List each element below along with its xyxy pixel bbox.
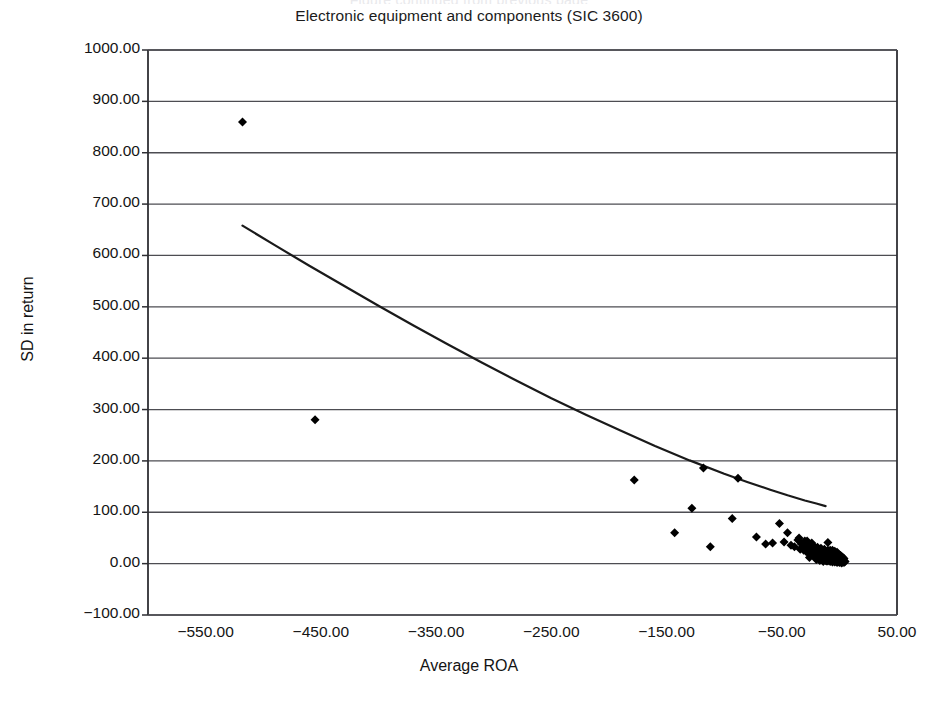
x-axis-tick-labels: −550.00−450.00−350.00−250.00−150.00−50.0…	[0, 623, 938, 649]
y-tick-label: 300.00	[48, 399, 140, 417]
y-tick-label: 1000.00	[48, 39, 140, 57]
y-tick-label: −100.00	[48, 604, 140, 622]
y-tick-label: 500.00	[48, 296, 140, 314]
x-tick-label: 50.00	[827, 623, 938, 641]
y-tick-label: 600.00	[48, 244, 140, 262]
y-tick-label: 0.00	[48, 553, 140, 571]
y-tick-label: 700.00	[48, 193, 140, 211]
y-tick-label: 900.00	[48, 90, 140, 108]
y-tick-label: 200.00	[48, 450, 140, 468]
scatter-plot-canvas	[0, 0, 938, 701]
data-point-markers	[238, 117, 850, 567]
plot-frame	[148, 50, 897, 615]
y-axis-title: SD in return	[19, 229, 37, 409]
y-tick-label: 400.00	[48, 347, 140, 365]
chart-figure: Figure continued from previous page Elec…	[0, 0, 938, 701]
x-axis-title: Average ROA	[0, 657, 938, 675]
y-tick-label: 800.00	[48, 142, 140, 160]
trend-line	[242, 226, 825, 506]
y-axis-tick-labels: −100.000.00100.00200.00300.00400.00500.0…	[44, 0, 140, 701]
gridlines	[148, 50, 897, 615]
y-tick-label: 100.00	[48, 501, 140, 519]
